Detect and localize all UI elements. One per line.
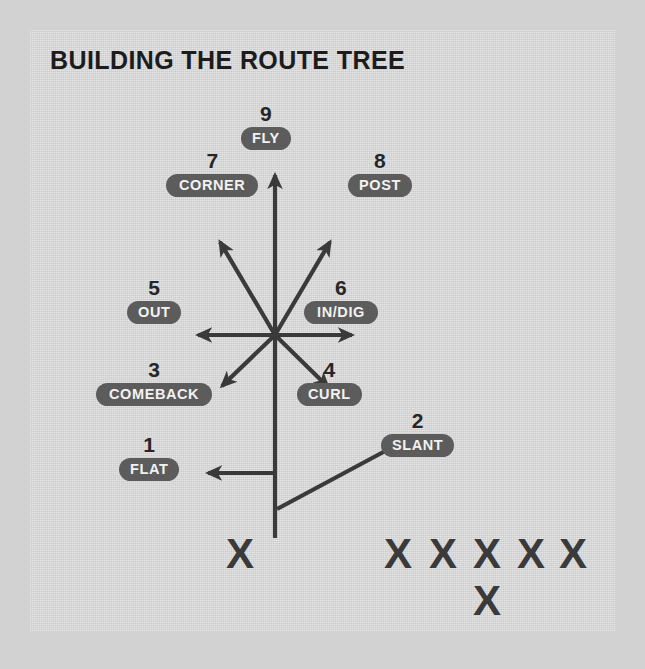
formation-markers: X X X X X X X: [30, 30, 616, 631]
route-tree-image: BUILDING THE ROUTE TREE: [0, 0, 645, 669]
formation-marker-lineman: X: [559, 530, 587, 577]
formation-marker-lineman: X: [384, 530, 412, 577]
formation-marker-lineman: X: [429, 530, 457, 577]
formation-marker-receiver: X: [226, 530, 254, 577]
formation-marker-lineman: X: [473, 530, 501, 577]
formation-marker-lineman: X: [517, 530, 545, 577]
formation-marker-quarterback: X: [473, 577, 501, 624]
diagram-panel: BUILDING THE ROUTE TREE: [30, 30, 616, 631]
